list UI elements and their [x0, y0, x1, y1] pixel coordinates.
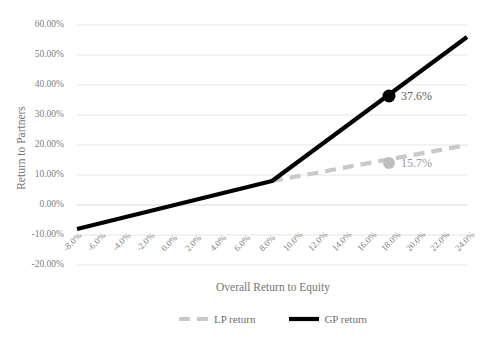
lp-return-swatch-icon [179, 315, 209, 323]
series-lp-return [272, 145, 467, 181]
legend-label-gp-return: GP return [324, 313, 367, 325]
chart-legend: LP return GP return [78, 313, 468, 325]
legend-label-lp-return: LP return [214, 313, 255, 325]
y-axis-title: Return to Partners [15, 83, 27, 213]
gp-return-swatch-icon [289, 315, 319, 323]
x-axis-title: Overall Return to Equity [78, 281, 468, 293]
series-gp-return [77, 37, 467, 229]
y-tick-label-60: 60.00% [14, 19, 64, 29]
y-tick-label-neg20: -20.00% [14, 259, 64, 269]
y-tick-label-50: 50.00% [14, 49, 64, 59]
lp-return-marker [383, 157, 395, 169]
gp-return-line [77, 37, 467, 229]
y-tick-label-neg10: -10.00% [14, 229, 64, 239]
legend-item-gp-return[interactable]: GP return [289, 313, 367, 325]
gp-return-marker [383, 90, 396, 103]
legend-item-lp-return[interactable]: LP return [179, 313, 255, 325]
gp-point-value-label: 37.6% [401, 89, 432, 104]
lp-point-value-label: 15.7% [401, 156, 432, 171]
chart-container: 60.00% 50.00% 40.00% 30.00% 20.00% 10.00… [0, 0, 489, 338]
lp-return-line [272, 145, 467, 181]
gridlines-group [77, 25, 467, 265]
